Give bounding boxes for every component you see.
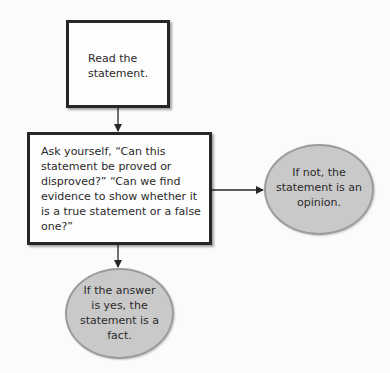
node-ask-yourself: Ask yourself, “Can this statement be pro… bbox=[27, 132, 212, 245]
node-ask-yourself-text: Ask yourself, “Can this statement be pro… bbox=[41, 144, 209, 234]
node-fact-text: If the answer is yes, the statement is a… bbox=[78, 283, 162, 343]
node-fact: If the answer is yes, the statement is a… bbox=[65, 268, 174, 359]
node-opinion-text: If not, the statement is an opinion. bbox=[274, 165, 364, 210]
node-read-statement: Read the statement. bbox=[66, 20, 170, 108]
node-read-statement-text: Read the statement. bbox=[88, 51, 152, 81]
node-opinion: If not, the statement is an opinion. bbox=[264, 144, 374, 235]
